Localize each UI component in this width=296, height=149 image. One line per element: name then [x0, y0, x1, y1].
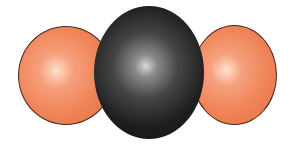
- oxygen-atom-right: [192, 25, 277, 125]
- carbon-atom-center: [94, 6, 204, 139]
